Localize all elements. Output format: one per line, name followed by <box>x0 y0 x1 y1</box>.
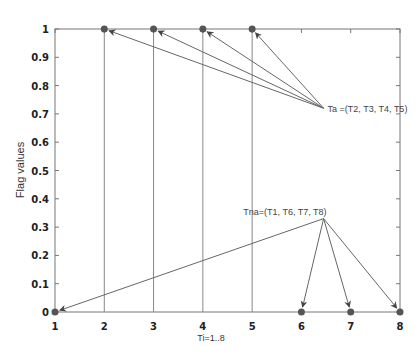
y-tick-label: 0 <box>42 307 49 318</box>
x-axis-label: Ti=1..8 <box>197 333 224 343</box>
y-tick-label: 0.9 <box>31 52 49 63</box>
x-tick-label: 7 <box>347 321 354 332</box>
data-point <box>150 26 157 33</box>
y-tick-label: 0.8 <box>31 81 49 92</box>
data-point <box>347 309 354 316</box>
y-tick-label: 0.4 <box>31 194 49 205</box>
x-tick-label: 6 <box>298 321 305 332</box>
y-tick-label: 0.6 <box>31 137 49 148</box>
y-tick-label: 0.3 <box>31 222 49 233</box>
x-tick-label: 1 <box>52 321 59 332</box>
annotations: Ta =(T2, T3, T4, T5)Tna=(T1, T6, T7, T8) <box>243 104 407 216</box>
y-tick-label: 0.2 <box>31 250 49 261</box>
y-tick-label: 0.5 <box>31 166 49 177</box>
y-axis-ticks: 00.10.20.30.40.50.60.70.80.91 <box>31 24 400 318</box>
x-tick-label: 5 <box>249 321 256 332</box>
data-point <box>52 309 59 316</box>
flag-values-chart: 00.10.20.30.40.50.60.70.80.91 12345678 T… <box>0 0 420 357</box>
x-tick-label: 8 <box>397 321 404 332</box>
axes-box <box>55 29 400 312</box>
x-tick-label: 2 <box>101 321 108 332</box>
data-point <box>199 26 206 33</box>
y-tick-label: 0.1 <box>31 279 49 290</box>
x-tick-label: 4 <box>199 321 206 332</box>
plot-area: 00.10.20.30.40.50.60.70.80.91 12345678 T… <box>31 24 407 332</box>
y-axis-label: Flag values <box>14 141 26 198</box>
y-tick-label: 1 <box>42 24 49 35</box>
data-point <box>298 309 305 316</box>
tna-annotation: Tna=(T1, T6, T7, T8) <box>243 207 326 217</box>
data-point <box>101 26 108 33</box>
ta-annotation: Ta =(T2, T3, T4, T5) <box>328 104 408 114</box>
y-tick-label: 0.7 <box>31 109 49 120</box>
annotation-arrows <box>60 31 397 311</box>
data-point <box>397 309 404 316</box>
x-tick-label: 3 <box>150 321 157 332</box>
data-point <box>249 26 256 33</box>
